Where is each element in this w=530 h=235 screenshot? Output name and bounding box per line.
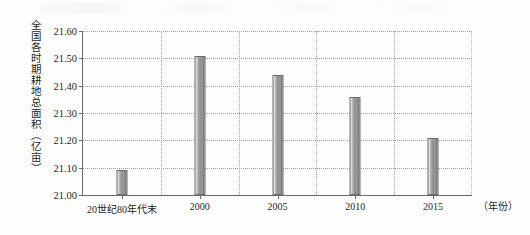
y-tick-label: 21.00	[53, 190, 77, 201]
y-tick-label: 21.30	[53, 108, 77, 119]
x-gridline	[239, 31, 240, 195]
y-tick-label: 21.50	[53, 53, 77, 64]
y-tick-label: 21.40	[53, 80, 77, 91]
y-gridline	[83, 58, 472, 59]
bar-2010	[350, 97, 361, 195]
y-axis-title: 全国各时期耕地总面积（亿亩）	[24, 20, 40, 210]
y-tick-mark	[79, 168, 83, 169]
x-gridline	[394, 31, 395, 195]
y-tick-mark	[79, 58, 83, 59]
y-tick-mark	[79, 113, 83, 114]
x-tick-label: 20世纪80年代末	[87, 201, 157, 216]
x-tick-label: 2000	[190, 201, 210, 212]
bar-20世纪80年代末	[116, 170, 127, 195]
x-tick-mark	[278, 195, 279, 199]
bar-2005	[272, 75, 283, 195]
y-tick-label: 21.10	[53, 162, 77, 173]
plot-area: 21.0021.1021.2021.3021.4021.5021.6020世纪8…	[82, 31, 472, 196]
x-gridline	[161, 31, 162, 195]
y-tick-mark	[79, 195, 83, 196]
x-gridline	[316, 31, 317, 195]
y-tick-mark	[79, 140, 83, 141]
x-tick-label: 2010	[345, 201, 365, 212]
bar-2000	[194, 56, 205, 195]
x-tick-label: 2005	[268, 201, 288, 212]
x-tick-mark	[433, 195, 434, 199]
y-tick-mark	[79, 31, 83, 32]
x-axis-unit-label: （年份）	[478, 198, 518, 213]
x-tick-mark	[122, 195, 123, 199]
y-tick-label: 21.20	[53, 135, 77, 146]
y-tick-label: 21.60	[53, 26, 77, 37]
x-tick-label: 2015	[423, 201, 443, 212]
y-tick-mark	[79, 86, 83, 87]
y-gridline	[83, 31, 472, 32]
scan-artifact	[40, 2, 510, 14]
chart-figure: 全国各时期耕地总面积（亿亩） 21.0021.1021.2021.3021.40…	[0, 0, 530, 235]
x-tick-mark	[200, 195, 201, 199]
bar-2015	[428, 138, 439, 195]
x-tick-mark	[355, 195, 356, 199]
